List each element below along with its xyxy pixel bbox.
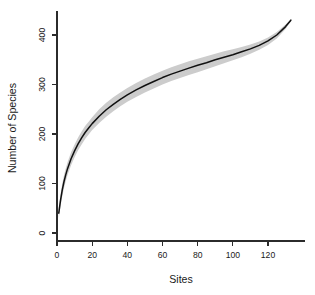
x-tick-label: 20 [87, 250, 97, 260]
chart-canvas: 0100200300400 020406080100120 Sites Numb… [0, 0, 315, 295]
species-accumulation-chart: 0100200300400 020406080100120 Sites Numb… [0, 0, 315, 295]
y-axis-title: Number of Species [6, 83, 18, 173]
y-tick-label: 200 [37, 127, 47, 142]
y-tick-label: 400 [37, 28, 47, 43]
x-axis-title: Sites [169, 273, 193, 285]
y-tick-label: 300 [37, 77, 47, 92]
x-tick-label: 80 [193, 250, 203, 260]
x-tick-label: 40 [123, 250, 133, 260]
x-tick-label: 120 [261, 250, 276, 260]
y-tick-label: 0 [37, 230, 47, 235]
x-tick-label: 0 [55, 250, 60, 260]
x-tick-label: 100 [226, 250, 241, 260]
x-tick-label: 60 [158, 250, 168, 260]
y-tick-label: 100 [37, 176, 47, 191]
